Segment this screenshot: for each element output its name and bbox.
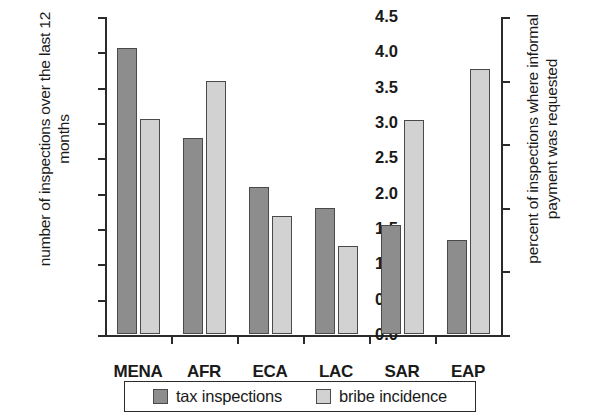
- y-tick-right: [503, 208, 510, 210]
- y-tick-right: [503, 335, 510, 337]
- y-tick-left: [98, 194, 105, 196]
- bar: [206, 81, 226, 334]
- y-tick-left: [98, 335, 105, 337]
- x-axis-category-label: EAP: [418, 362, 518, 382]
- bar: [183, 138, 203, 334]
- bar: [249, 187, 269, 334]
- bar: [447, 240, 467, 334]
- x-tick: [303, 337, 305, 344]
- y-tick-left: [98, 123, 105, 125]
- y-tick-right: [503, 81, 510, 83]
- y-tick-left: [98, 158, 105, 160]
- bar: [338, 246, 358, 334]
- bar: [470, 69, 490, 334]
- legend-item: bribe incidence: [316, 387, 447, 406]
- y-tick-label-left: 2.5: [352, 148, 398, 167]
- y-tick-left: [98, 88, 105, 90]
- x-tick: [171, 337, 173, 344]
- legend-swatch-icon: [153, 389, 168, 404]
- y-tick-label-left: 3.5: [352, 78, 398, 97]
- y-axis-right-line: [501, 17, 503, 337]
- y-tick-left: [98, 264, 105, 266]
- y-tick-right: [503, 271, 510, 273]
- plot-area: 0.00.51.01.52.02.53.03.54.04.5 051015202…: [105, 17, 503, 336]
- x-tick: [435, 337, 437, 344]
- x-tick: [369, 337, 371, 344]
- legend-label: tax inspections: [176, 387, 282, 406]
- chart-legend: tax inspectionsbribe incidence: [124, 381, 476, 412]
- y-tick-left: [98, 17, 105, 19]
- y-tick-label-left: 2.0: [352, 184, 398, 203]
- y-tick-left: [98, 229, 105, 231]
- bar: [315, 208, 335, 334]
- x-tick: [237, 337, 239, 344]
- y-axis-label-right: percent of inspections where informal pa…: [523, 0, 561, 289]
- y-tick-label-left: 4.5: [352, 7, 398, 26]
- y-tick-right: [503, 144, 510, 146]
- bar: [404, 120, 424, 334]
- bar: [272, 216, 292, 334]
- y-tick-label-left: 4.0: [352, 42, 398, 61]
- y-tick-left: [98, 52, 105, 54]
- y-tick-left: [98, 300, 105, 302]
- bar: [140, 119, 160, 334]
- y-axis-left-line: [105, 17, 107, 337]
- y-axis-label-left: number of inspections over the last 12 m…: [35, 0, 73, 289]
- bar: [381, 225, 401, 334]
- bar: [117, 48, 137, 334]
- legend-swatch-icon: [316, 389, 331, 404]
- y-tick-label-left: 3.0: [352, 113, 398, 132]
- legend-item: tax inspections: [153, 387, 282, 406]
- y-tick-right: [503, 17, 510, 19]
- chart-figure: number of inspections over the last 12 m…: [0, 0, 591, 417]
- legend-label: bribe incidence: [339, 387, 447, 406]
